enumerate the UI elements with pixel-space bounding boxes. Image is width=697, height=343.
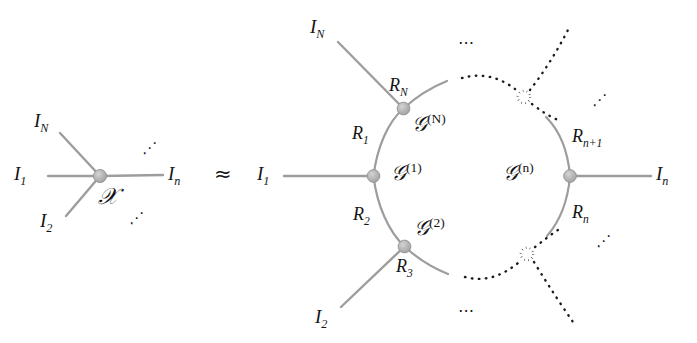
core-label-G-n: 𝒢(n)	[503, 161, 534, 184]
top-dots-icon: ⋯	[458, 35, 475, 51]
arc-RN-upper	[404, 81, 448, 109]
leg-In-left	[100, 175, 163, 176]
right-label-I-N: IN	[310, 17, 324, 40]
rank-label-R-3: R3	[396, 257, 413, 279]
left-label-X: 𝒳	[98, 185, 118, 208]
approx-symbol: ≈	[214, 164, 232, 185]
dotted-arc-upper-left	[462, 76, 515, 89]
rank-label-R-2: R2	[353, 205, 370, 227]
lower-hollow-node-icon	[521, 248, 533, 260]
leg-I2-right	[341, 247, 405, 308]
arc-Rn	[547, 176, 570, 236]
bottom-dots-icon: ⋯	[458, 303, 475, 319]
tensor-ring-decomposition-figure: IN I1 I2 In 𝒳 ⋰ ⋰ ≈ IN I1 I2 In RN R1 R2…	[0, 0, 697, 343]
leg-IN-left	[60, 133, 100, 176]
dotted-leg-upper-top	[530, 26, 570, 90]
right-lower-dots-icon: ⋰	[596, 234, 612, 249]
arc-Rn1	[546, 117, 570, 176]
node-G-N	[397, 102, 410, 115]
left-label-I-2: I2	[40, 211, 52, 234]
core-label-G-2: 𝒢(2)	[414, 216, 445, 239]
diagram-canvas	[0, 0, 697, 343]
node-G-1	[367, 170, 380, 183]
left-label-I-1: I1	[14, 164, 26, 187]
node-X	[93, 169, 106, 182]
upper-hollow-node-icon	[518, 91, 530, 103]
node-G-2	[398, 240, 411, 253]
dotted-arc-upper-right	[532, 104, 558, 120]
right-label-I-n: In	[656, 164, 668, 187]
node-G-n	[564, 170, 577, 183]
left-dots-lower-icon: ⋰	[129, 211, 145, 226]
rank-label-R-n-plus-1: Rn+1	[572, 127, 602, 149]
right-label-I-1: I1	[257, 164, 269, 187]
dotted-arc-lower-left	[465, 263, 518, 279]
rank-label-R-N: RN	[389, 76, 408, 98]
left-label-I-n: In	[168, 164, 180, 187]
dotted-leg-lower-bottom	[534, 262, 575, 325]
dotted-arc-lower-right	[535, 230, 558, 247]
right-label-I-2: I2	[315, 307, 327, 330]
rank-label-R-n: Rn	[572, 203, 589, 225]
left-dots-upper-icon: ⋰	[142, 141, 158, 156]
arc-R2	[374, 176, 405, 247]
rank-label-R-1: R1	[352, 124, 369, 146]
core-label-G-N: 𝒢(N)	[412, 112, 446, 135]
core-label-G-1: 𝒢(1)	[391, 161, 422, 184]
right-tensor-ring	[284, 26, 651, 325]
right-upper-dots-icon: ⋰	[592, 93, 608, 108]
leg-I2-left	[66, 176, 100, 216]
left-label-I-N: IN	[34, 111, 48, 134]
